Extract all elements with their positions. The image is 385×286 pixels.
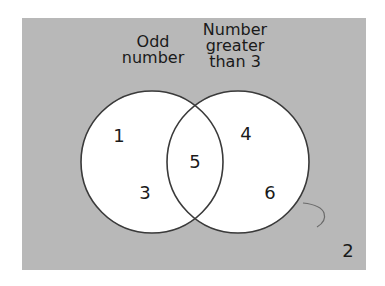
venn-circles: [0, 0, 385, 286]
greater-than-3-label-line-3: than 3: [195, 54, 275, 70]
element-2-outside: 2: [342, 242, 353, 260]
element-1: 1: [109, 127, 129, 145]
greater-than-3-label: Number greater than 3: [195, 22, 275, 70]
element-3: 3: [135, 184, 155, 202]
element-5: 5: [185, 153, 205, 171]
curly-mark: [303, 203, 325, 227]
odd-number-label: Odd number: [118, 34, 188, 66]
element-4: 4: [236, 125, 256, 143]
odd-number-label-line-2: number: [118, 50, 188, 66]
venn-diagram-canvas: Odd number Number greater than 3 1 3 5 4…: [0, 0, 385, 286]
element-6: 6: [260, 184, 280, 202]
